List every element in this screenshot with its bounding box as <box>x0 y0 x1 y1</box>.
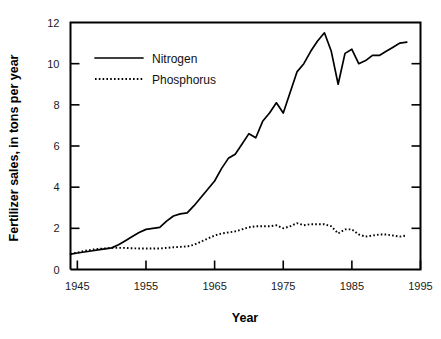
chart-figure: 194519551965197519851995 024681012 Nitro… <box>0 0 441 339</box>
y-tick-label-8: 8 <box>53 99 59 111</box>
legend-label-phosphorus: Phosphorus <box>152 73 216 87</box>
x-tick-label-1955: 1955 <box>134 280 158 292</box>
x-tick-label-1975: 1975 <box>271 280 295 292</box>
y-tick-label-12: 12 <box>47 17 59 29</box>
x-tick-label-1995: 1995 <box>408 280 432 292</box>
y-tick-label-0: 0 <box>53 264 59 276</box>
y-tick-label-4: 4 <box>53 181 59 193</box>
legend-label-nitrogen: Nitrogen <box>152 52 197 66</box>
fertilizer-sales-line-chart: 194519551965197519851995 024681012 Nitro… <box>0 0 441 339</box>
x-axis-title: Year <box>232 311 259 325</box>
x-tick-label-1985: 1985 <box>340 280 364 292</box>
x-tick-label-1965: 1965 <box>202 280 226 292</box>
x-tick-label-1945: 1945 <box>65 280 89 292</box>
y-axis-title: Fertilizer sales, in tons per year <box>7 54 21 241</box>
y-tick-label-6: 6 <box>53 140 59 152</box>
y-tick-label-2: 2 <box>53 222 59 234</box>
y-tick-label-10: 10 <box>47 58 59 70</box>
